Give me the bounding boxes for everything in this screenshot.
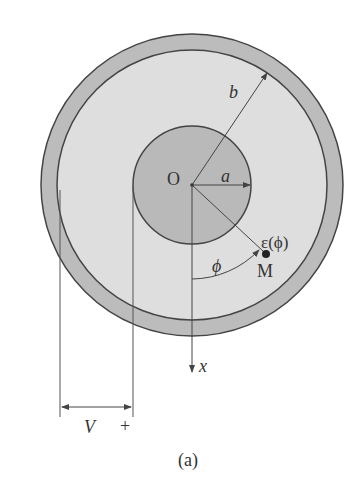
label-polarity-plus: + [120, 416, 130, 436]
label-radius-a: a [221, 166, 230, 186]
label-radius-b: b [229, 82, 238, 102]
figure-caption: (a) [178, 450, 198, 471]
label-center-o: O [167, 169, 180, 189]
label-angle-phi: ϕ [212, 256, 221, 276]
label-voltage: V [84, 417, 97, 437]
label-permittivity: ε(ϕ) [261, 233, 288, 252]
label-point-m: M [257, 261, 273, 281]
coaxial-cable-diagram: O a b ε(ϕ) ϕ M x V + (a) [0, 0, 364, 497]
label-x-axis: x [198, 356, 207, 376]
